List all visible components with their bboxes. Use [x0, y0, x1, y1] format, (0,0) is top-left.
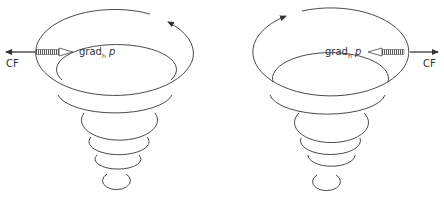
right-grad-arrow-shaft	[381, 50, 404, 55]
left-inner-ring	[57, 45, 177, 80]
right-grad-arrow-head	[368, 48, 382, 56]
right-vortex	[253, 8, 409, 191]
right-grad-text: grad	[325, 46, 348, 57]
left-grad-text: grad	[79, 46, 102, 57]
right-force-arrows	[368, 48, 438, 56]
left-grad-sub: h	[102, 52, 106, 59]
right-grad-label: gradh p	[325, 47, 361, 59]
left-grad-arrow-shaft	[36, 50, 60, 55]
right-cf-label: CF	[423, 59, 436, 69]
left-ring-5	[95, 155, 141, 169]
left-ring-2	[58, 95, 172, 113]
right-ring-3	[295, 113, 369, 143]
left-grad-arrow-head	[59, 48, 73, 56]
left-cf-label: CF	[6, 59, 19, 69]
right-ring-6	[313, 175, 341, 191]
left-ring-6	[102, 174, 130, 190]
right-ring-4	[301, 138, 361, 155]
left-force-arrows	[6, 48, 73, 56]
right-rotation-arrow	[253, 16, 286, 55]
left-grad-var: p	[109, 46, 115, 57]
left-grad-label: gradh p	[79, 47, 115, 59]
left-rotation-arrow	[168, 22, 193, 58]
right-grad-var: p	[355, 46, 361, 57]
left-vortex	[36, 9, 194, 189]
left-ring-3	[82, 113, 158, 140]
right-grad-sub: h	[348, 52, 352, 59]
right-ring-2	[270, 95, 385, 114]
vortex-diagram	[0, 0, 444, 197]
right-ring-5	[308, 155, 355, 166]
